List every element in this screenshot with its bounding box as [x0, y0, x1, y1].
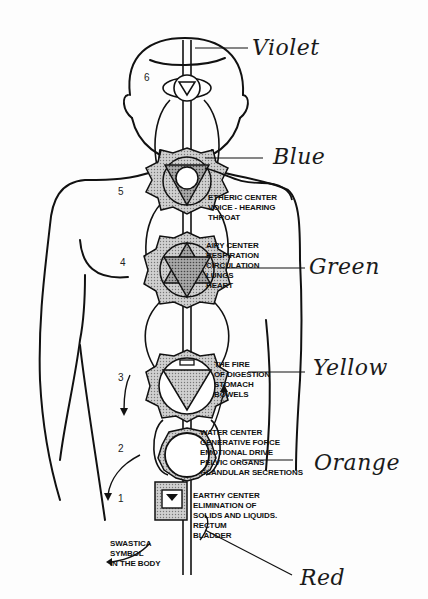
chakra-number-2: 2 [118, 443, 124, 454]
sacral-center-description: WATER CENTER GENERATIVE FORCE EMOTIONAL … [200, 428, 303, 478]
chakra-number-4: 4 [120, 257, 126, 268]
color-label-blue: Blue [273, 144, 325, 169]
chakra-number-6: 6 [144, 72, 150, 83]
heart-center-description: AIRY CENTER RESPIRATION CIRCULATION LUNG… [206, 241, 259, 291]
chakra-diagram: Violet Blue Green Yellow Orange Red ETHE… [0, 0, 428, 599]
ajna-chakra-symbol [163, 75, 211, 101]
root-chakra-symbol [155, 482, 187, 520]
color-label-green: Green [309, 254, 380, 279]
root-center-description: EARTHY CENTER ELIMINATION OF SOLIDS AND … [193, 491, 277, 541]
swastica-note: SWASTICA SYMBOL IN THE BODY [110, 539, 160, 569]
chakra-number-5: 5 [118, 186, 124, 197]
color-label-orange: Orange [314, 450, 400, 475]
color-label-yellow: Yellow [313, 355, 388, 380]
color-label-violet: Violet [252, 35, 320, 60]
chakra-number-1: 1 [118, 493, 124, 504]
color-label-red: Red [300, 565, 345, 590]
throat-center-description: ETHERIC CENTER VOICE - HEARING THROAT [208, 193, 277, 223]
chakra-number-3: 3 [118, 372, 124, 383]
solar-center-description: THE FIRE OF DIGESTION STOMACH BOWELS [214, 360, 270, 400]
